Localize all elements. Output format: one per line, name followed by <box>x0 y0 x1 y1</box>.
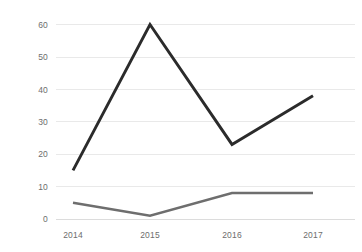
chart-canvas: 60 50 40 30 20 10 0 2014 2015 2016 2017 <box>0 0 362 252</box>
y-axis-tick-labels: 60 50 40 30 20 10 0 <box>38 20 48 225</box>
y-tick-label-20: 20 <box>38 149 48 159</box>
x-tick-label-2015: 2015 <box>140 230 160 240</box>
y-tick-label-40: 40 <box>38 85 48 95</box>
series-group <box>73 25 313 216</box>
x-tick-label-2016: 2016 <box>222 230 242 240</box>
y-tick-label-50: 50 <box>38 52 48 62</box>
x-axis-tick-labels: 2014 2015 2016 2017 <box>63 230 323 240</box>
y-tick-label-30: 30 <box>38 117 48 127</box>
series-line-2 <box>73 193 313 216</box>
y-tick-label-0: 0 <box>43 214 48 224</box>
y-tick-label-60: 60 <box>38 20 48 30</box>
x-tick-label-2017: 2017 <box>303 230 323 240</box>
grid-lines <box>56 25 355 220</box>
line-chart: 60 50 40 30 20 10 0 2014 2015 2016 2017 <box>0 0 362 252</box>
y-tick-label-10: 10 <box>38 182 48 192</box>
x-tick-label-2014: 2014 <box>63 230 83 240</box>
series-line-1 <box>73 25 313 171</box>
